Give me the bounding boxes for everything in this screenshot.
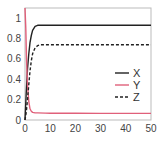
x-tick-label: 10 <box>45 123 57 134</box>
legend-label-y: Y <box>133 79 141 91</box>
x-tick-label: 20 <box>70 123 82 134</box>
legend-label-x: X <box>133 67 141 79</box>
y-tick-label: 0 <box>15 115 21 126</box>
y-tick-label: 1 <box>15 13 21 24</box>
y-tick-label: 0.4 <box>7 74 21 85</box>
x-tick-label: 40 <box>120 123 132 134</box>
y-tick-label: 0.8 <box>7 33 21 44</box>
line-chart: 00.20.40.60.81 01020304050 XYZ <box>0 0 164 141</box>
x-tick-label: 50 <box>145 123 157 134</box>
x-tick-label: 30 <box>95 123 107 134</box>
legend: XYZ <box>115 67 141 103</box>
y-tick-label: 0.6 <box>7 53 21 64</box>
y-tick-label: 0.2 <box>7 94 21 105</box>
legend-label-z: Z <box>133 91 140 103</box>
x-tick-label: 0 <box>22 123 28 134</box>
